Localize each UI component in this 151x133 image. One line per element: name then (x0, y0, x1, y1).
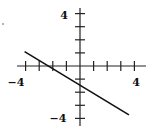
axes (17, 8, 146, 126)
line-graph: −4 4 4 −4 (0, 0, 151, 133)
x-min-label: −4 (8, 76, 25, 89)
x-max-label: 4 (132, 76, 140, 89)
y-min-label: −4 (50, 112, 67, 125)
bullet-dot (2, 23, 4, 25)
y-max-label: 4 (60, 9, 68, 22)
